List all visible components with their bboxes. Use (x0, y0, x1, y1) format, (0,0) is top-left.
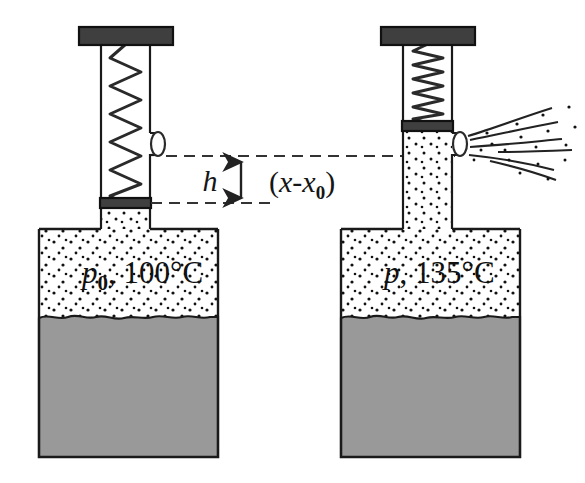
right-pressure-symbol: p (382, 255, 400, 290)
right-temperature-text: , (400, 255, 416, 290)
right-spring (413, 44, 443, 123)
left-liquid-region (39, 316, 218, 457)
height-label: h (203, 164, 218, 197)
left-cylinder-neck (101, 206, 150, 229)
left-temperature-value: 100°C (124, 255, 204, 290)
svg-text:(x-x0): (x-x0) (269, 165, 335, 203)
right-top-plate (381, 27, 475, 45)
left-spring (110, 44, 141, 204)
x0-symbol: x (301, 165, 316, 198)
paren-open: ( (269, 165, 279, 199)
left-pressure-symbol: p (80, 255, 98, 290)
x0-subscript: 0 (316, 182, 326, 203)
right-temperature-value: 135°C (415, 255, 495, 290)
vapor-jet (468, 105, 577, 180)
left-pressure-subscript: 0 (98, 271, 109, 295)
right-piston (402, 121, 453, 131)
left-top-plate (79, 27, 173, 45)
diagram-svg: h (x-x0) (0, 0, 585, 483)
minus-symbol: - (292, 165, 302, 198)
displacement-label: (x-x0) (269, 165, 335, 203)
left-valve-closed[interactable] (151, 132, 165, 156)
right-cylinder-neck (403, 130, 460, 229)
left-piston (100, 198, 151, 208)
right-apparatus (341, 27, 577, 457)
x-symbol: x (278, 165, 293, 198)
right-valve-open[interactable] (453, 132, 467, 156)
left-temperature-text: , (108, 255, 124, 290)
svg-text:p, 135°C: p, 135°C (382, 255, 495, 290)
paren-close: ) (325, 165, 335, 199)
right-vessel-label: p, 135°C (382, 255, 495, 290)
right-liquid-region (341, 316, 520, 457)
figure-canvas: h (x-x0) (0, 0, 585, 483)
left-apparatus (39, 27, 218, 457)
